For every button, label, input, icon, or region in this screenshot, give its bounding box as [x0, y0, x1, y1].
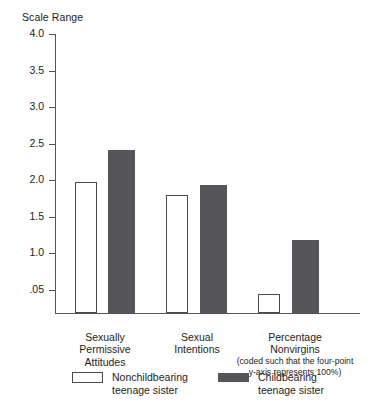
y-tick-5: 1.5 — [49, 217, 55, 218]
y-tick-label-0: 4.0 — [29, 27, 44, 39]
bar-sexual-intentions-nonchildbearing — [166, 195, 188, 313]
legend-item-childbearing: Childbearing teenage sister — [218, 371, 324, 397]
category-label-1-text: Sexual Intentions — [174, 331, 220, 356]
y-tick-2: 3.0 — [49, 107, 55, 108]
legend-item-nonchildbearing: Nonchildbearing teenage sister — [72, 371, 188, 397]
x-axis-line — [55, 313, 360, 314]
y-tick-label-3: 2.5 — [29, 137, 44, 149]
legend-swatch-dark-icon — [218, 373, 249, 382]
bar-sexual-intentions-childbearing — [200, 185, 227, 313]
y-axis-line — [55, 34, 56, 313]
legend-swatch-light-icon — [72, 372, 103, 383]
legend-label-childbearing: Childbearing teenage sister — [258, 371, 324, 397]
y-tick-7: .05 — [49, 290, 55, 291]
y-tick-label-5: 1.5 — [29, 210, 44, 222]
bar-sexually-permissive-attitudes-childbearing — [108, 150, 135, 313]
bar-percentage-nonvirgins-childbearing — [292, 240, 319, 313]
category-label-2-text: Percentage Nonvirgins — [268, 331, 322, 356]
bar-chart-figure: Scale Range 4.0 3.5 3.0 2.5 2.0 1.5 1.0 … — [0, 0, 375, 408]
y-tick-1: 3.5 — [49, 71, 55, 72]
y-tick-label-7: .05 — [29, 283, 44, 295]
y-tick-label-6: 1.0 — [29, 246, 44, 258]
bar-sexually-permissive-attitudes-nonchildbearing — [75, 182, 97, 313]
category-label-0-text: Sexually Permissive Attitudes — [79, 331, 130, 368]
category-label-0: Sexually Permissive Attitudes — [55, 318, 155, 368]
y-tick-0: 4.0 — [49, 34, 55, 35]
y-tick-4: 2.0 — [49, 180, 55, 181]
plot-area: 4.0 3.5 3.0 2.5 2.0 1.5 1.0 .05 — [55, 34, 360, 313]
y-axis-title: Scale Range — [22, 11, 83, 23]
y-tick-label-2: 3.0 — [29, 100, 44, 112]
y-tick-3: 2.5 — [49, 144, 55, 145]
bar-percentage-nonvirgins-nonchildbearing — [258, 294, 280, 313]
y-tick-label-1: 3.5 — [29, 64, 44, 76]
legend-label-nonchildbearing: Nonchildbearing teenage sister — [112, 371, 188, 397]
y-tick-label-4: 2.0 — [29, 173, 44, 185]
chart-legend: Nonchildbearing teenage sister Childbear… — [0, 371, 375, 405]
y-tick-6: 1.0 — [49, 253, 55, 254]
